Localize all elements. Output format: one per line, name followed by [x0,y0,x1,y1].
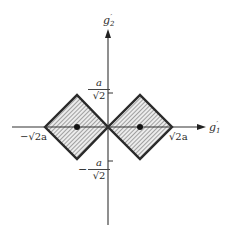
y-axis-arrow-icon [105,29,111,38]
y-axis-label-prime: ′ [111,13,113,21]
y-neg-denominator: √2 [93,170,106,181]
y-pos-tick-label: a √2 [88,78,110,101]
x-axis-label-sub: 1 [216,127,220,135]
x-pos-tick-label: √2a [169,132,188,142]
x-neg-tick-label: −√2a [20,132,47,142]
y-axis-label-sub: 2 [110,20,114,28]
y-neg-sign: − [78,164,87,175]
y-neg-tick-label: a √2 [88,158,110,181]
y-pos-denominator: √2 [93,90,106,101]
y-neg-numerator: a [96,158,102,169]
right-center-dot [137,124,143,130]
left-center-dot [74,124,80,130]
x-axis-label-prime: ′ [217,120,219,128]
diagram-canvas [0,0,226,230]
x-axis-label: g1′ [209,121,218,135]
y-axis-label-base: g [103,14,110,27]
y-axis-label: g2′ [103,14,112,28]
x-axis-label-base: g [209,121,216,134]
y-pos-numerator: a [96,78,102,89]
x-axis-arrow-icon [197,124,206,130]
